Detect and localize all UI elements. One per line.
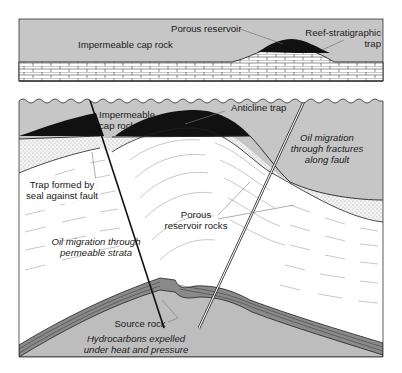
svg-text:seal against fault: seal against fault <box>26 190 98 201</box>
label-reef-trap: Reef-stratigraphic <box>305 27 381 38</box>
label-fault-trap: Trap formed by <box>30 179 95 190</box>
label-fault-migration: Oil migration <box>300 132 354 143</box>
top-panel: Impermeable cap rock Porous reservoir Re… <box>19 19 383 81</box>
svg-text:along fault: along fault <box>305 154 350 165</box>
svg-text:reservoir rocks: reservoir rocks <box>165 220 228 231</box>
label-hydrocarbons-expelled: Hydrocarbons expelled <box>87 333 186 344</box>
label-porous-reservoir-rocks: Porous <box>181 209 212 220</box>
label-anticline-trap: Anticline trap <box>231 102 286 113</box>
svg-text:permeable strata: permeable strata <box>59 247 132 258</box>
trap-diagram: Impermeable cap rock Porous reservoir Re… <box>0 0 402 373</box>
svg-text:through fractures: through fractures <box>291 143 364 154</box>
label-impermeable-cap-rock: Impermeable cap rock <box>78 39 173 50</box>
svg-text:cap rock: cap rock <box>99 120 135 131</box>
label-strata-migration: Oil migration through <box>51 236 140 247</box>
label-impermeable-cap-rock-2: Impermeable <box>99 109 155 120</box>
label-source-rock: Source rock <box>114 318 165 329</box>
label-porous-reservoir: Porous reservoir <box>171 23 242 34</box>
svg-text:trap: trap <box>364 38 381 49</box>
svg-text:under heat and pressure: under heat and pressure <box>84 344 189 355</box>
